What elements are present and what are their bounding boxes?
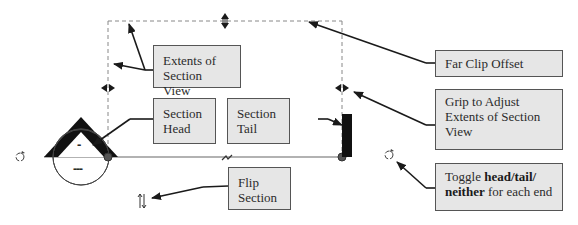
callout-grip-to-adjust: Grip to Adjust Extents of Section View	[435, 89, 563, 150]
flip-icon[interactable]	[138, 194, 146, 208]
cycle-icon-left[interactable]	[16, 151, 25, 161]
callout-extents-of-section-view: Extents of Section View	[153, 45, 241, 88]
section-head-upper-label: -	[77, 137, 81, 152]
section-head-lower-label: ---	[73, 162, 82, 176]
section-tail-symbol	[342, 114, 352, 157]
cycle-icon-right[interactable]	[385, 149, 394, 159]
callout-flip-section: Flip Section	[228, 167, 291, 210]
callout-section-head: Section Head	[153, 98, 216, 144]
callout-section-tail: Section Tail	[227, 98, 290, 144]
far-clip-grip-icon[interactable]	[221, 13, 229, 29]
callout-far-clip-offset: Far Clip Offset	[435, 50, 563, 77]
head-endpoint-grip	[104, 153, 112, 161]
callout-toggle-head-tail: Toggle head/tail/ neither for each end	[435, 163, 563, 211]
